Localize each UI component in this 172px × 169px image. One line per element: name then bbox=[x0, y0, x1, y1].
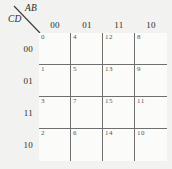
cell-value bbox=[103, 97, 134, 128]
cell-value bbox=[39, 65, 70, 96]
kmap-cell[interactable]: 14 bbox=[103, 129, 135, 161]
cell-value bbox=[39, 97, 70, 128]
row-header-column: 00 01 11 10 bbox=[2, 33, 36, 161]
kmap-cell[interactable]: 0 bbox=[39, 33, 71, 65]
kmap-cell[interactable]: 15 bbox=[103, 97, 135, 129]
kmap-cell[interactable]: 1 bbox=[39, 65, 71, 97]
cell-value bbox=[71, 129, 102, 161]
kmap-cell[interactable]: 10 bbox=[135, 129, 167, 161]
column-header-1: 01 bbox=[71, 19, 103, 32]
kmap-cell[interactable]: 5 bbox=[71, 65, 103, 97]
kmap-cell[interactable]: 6 bbox=[71, 129, 103, 161]
cell-value bbox=[39, 33, 70, 64]
kmap-cell[interactable]: 12 bbox=[103, 33, 135, 65]
kmap-cell[interactable]: 4 bbox=[71, 33, 103, 65]
kmap-cell[interactable]: 13 bbox=[103, 65, 135, 97]
kmap-cell[interactable]: 9 bbox=[135, 65, 167, 97]
cell-value bbox=[135, 129, 167, 161]
kmap-grid: 0 4 12 8 1 5 13 9 bbox=[39, 33, 167, 161]
kmap-cell[interactable]: 3 bbox=[39, 97, 71, 129]
row-header-3: 10 bbox=[2, 129, 36, 161]
row-header-2: 11 bbox=[2, 97, 36, 129]
cell-value bbox=[135, 97, 167, 128]
row-header-0: 00 bbox=[2, 33, 36, 65]
kmap-cell[interactable]: 2 bbox=[39, 129, 71, 161]
cell-value bbox=[103, 33, 134, 64]
kmap-cell[interactable]: 7 bbox=[71, 97, 103, 129]
column-header-3: 10 bbox=[135, 19, 167, 32]
cell-value bbox=[71, 65, 102, 96]
cell-value bbox=[71, 97, 102, 128]
karnaugh-map-figure: AB CD 00 01 11 10 00 01 11 10 0 4 12 8 bbox=[0, 0, 172, 169]
kmap-cell[interactable]: 8 bbox=[135, 33, 167, 65]
kmap-cell[interactable]: 11 bbox=[135, 97, 167, 129]
cell-value bbox=[135, 33, 167, 64]
column-header-0: 00 bbox=[39, 19, 71, 32]
cell-value bbox=[135, 65, 167, 96]
row-variables-label: CD bbox=[8, 14, 22, 24]
column-header-2: 11 bbox=[103, 19, 135, 32]
cell-value bbox=[103, 65, 134, 96]
column-variables-label: AB bbox=[25, 3, 37, 13]
cell-value bbox=[39, 129, 70, 161]
cell-value bbox=[71, 33, 102, 64]
cell-value bbox=[103, 129, 134, 161]
row-header-1: 01 bbox=[2, 65, 36, 97]
column-header-row: 00 01 11 10 bbox=[39, 19, 167, 32]
